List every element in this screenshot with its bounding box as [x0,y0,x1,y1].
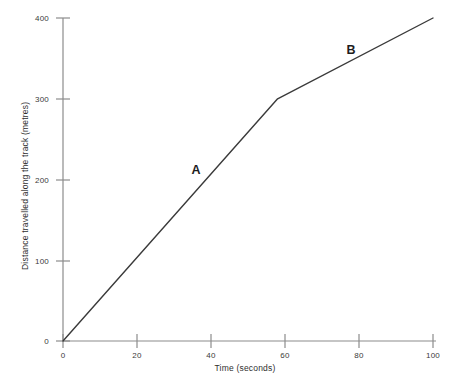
data-line-series-journey [63,18,433,341]
y-tick-label-400: 400 [25,14,49,23]
chart-canvas [0,0,453,387]
y-axis-title: Distance travelled along the track (metr… [20,102,30,270]
x-tick-label-0: 0 [61,351,66,360]
y-tick-label-0: 0 [25,337,49,346]
x-tick-label-40: 40 [206,351,215,360]
segment-label-b: B [346,43,355,57]
x-tick-label-60: 60 [280,351,289,360]
x-axis-title: Time (seconds) [214,363,275,373]
x-tick-label-80: 80 [354,351,363,360]
x-tick-label-100: 100 [426,351,440,360]
distance-time-chart: 400 300 200 100 0 0 20 40 60 80 100 Time… [0,0,453,387]
x-tick-label-20: 20 [132,351,141,360]
segment-label-a: A [191,163,200,177]
